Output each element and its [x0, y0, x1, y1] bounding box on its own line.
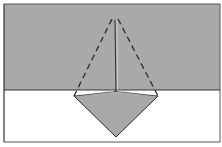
- gray-paper-band: [4, 4, 220, 90]
- fold-diagram: [0, 0, 222, 147]
- diagram-canvas: [0, 0, 222, 147]
